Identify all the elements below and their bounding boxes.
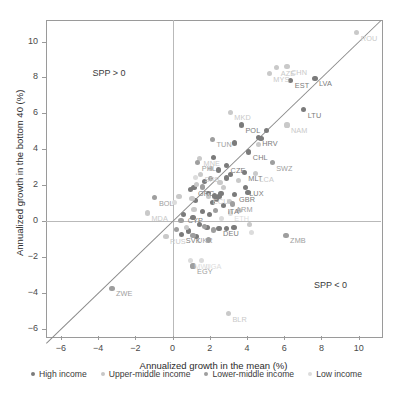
y-tick — [42, 185, 46, 186]
legend-label: Upper-middle income — [109, 369, 191, 379]
point-label: UKR — [197, 236, 213, 245]
data-point — [239, 122, 244, 127]
data-point — [174, 227, 179, 232]
data-point — [211, 227, 216, 232]
x-tick — [321, 336, 322, 340]
scatter-plot-figure: −6−4−20246810−6−4−20246810 ESTLVALTUPOLH… — [0, 0, 393, 394]
x-tick — [61, 336, 62, 340]
point-label: SWZ — [276, 164, 293, 173]
point-label: MKD — [234, 113, 251, 122]
y-tick — [42, 42, 46, 43]
x-tick — [247, 336, 248, 340]
y-tick-label: −4 — [14, 287, 38, 297]
legend-dot-icon — [204, 372, 208, 376]
point-label: CHL — [253, 153, 268, 162]
legend-item-high-income[interactable]: High income — [31, 369, 87, 379]
x-tick — [284, 336, 285, 340]
x-tick-label: 2 — [196, 343, 224, 353]
point-label: LVA — [319, 79, 332, 88]
data-point — [184, 225, 189, 230]
point-label: GBR — [239, 195, 255, 204]
data-point — [224, 175, 229, 180]
point-label: SRB — [204, 175, 219, 184]
y-axis-label: Annualized growth in the bottom 40 (%) — [14, 90, 25, 256]
point-label: PHL — [202, 164, 217, 173]
y-tick — [42, 149, 46, 150]
data-point — [216, 226, 221, 231]
legend-item-upper-middle-income[interactable]: Upper-middle income — [101, 369, 191, 379]
x-tick-label: 10 — [345, 343, 373, 353]
point-label: TUN — [217, 140, 232, 149]
horizontal-zero-line — [46, 221, 381, 222]
point-label: MDA — [151, 214, 168, 223]
quadrant-annotation: SPP < 0 — [314, 280, 347, 290]
legend-label: Low income — [316, 369, 362, 379]
point-label: DEU — [223, 229, 239, 238]
x-tick-label: 8 — [307, 343, 335, 353]
y-tick-label: 10 — [14, 36, 38, 46]
legend-dot-icon — [31, 372, 35, 376]
y-tick — [42, 293, 46, 294]
x-tick-label: 4 — [233, 343, 261, 353]
data-point — [109, 286, 114, 291]
chart-legend: High incomeUpper-middle incomeLower-midd… — [0, 369, 393, 379]
y-tick — [42, 257, 46, 258]
point-label: ETH — [234, 214, 249, 223]
point-label: NAM — [291, 126, 308, 135]
point-label: LTU — [308, 111, 322, 120]
x-tick — [210, 336, 211, 340]
y-tick — [42, 329, 46, 330]
y-tick — [42, 113, 46, 114]
x-tick — [173, 336, 174, 340]
point-label: ZWE — [116, 289, 133, 298]
point-label: ECU — [213, 197, 229, 206]
point-label: MWI — [194, 262, 209, 271]
point-label: CZE — [231, 166, 246, 175]
x-tick-label: 0 — [159, 343, 187, 353]
data-point — [188, 187, 193, 192]
x-tick-label: 6 — [270, 343, 298, 353]
point-label: BOL — [159, 199, 174, 208]
x-tick — [135, 336, 136, 340]
data-point — [284, 122, 289, 127]
x-tick-label: −2 — [121, 343, 149, 353]
legend-item-low-income[interactable]: Low income — [308, 369, 362, 379]
legend-item-lower-middle-income[interactable]: Lower-middle income — [204, 369, 294, 379]
y-tick — [42, 77, 46, 78]
legend-label: Lower-middle income — [212, 369, 294, 379]
point-label: BLR — [232, 315, 247, 324]
data-point — [228, 110, 233, 115]
data-point — [283, 233, 288, 238]
y-tick-label: −6 — [14, 323, 38, 333]
x-tick-label: −4 — [84, 343, 112, 353]
point-label: ARM — [236, 205, 253, 214]
point-label: EST — [295, 81, 310, 90]
legend-dot-icon — [101, 372, 105, 376]
data-point — [312, 76, 317, 81]
point-label: ROU — [361, 34, 378, 43]
data-point — [213, 208, 218, 213]
legend-dot-icon — [308, 372, 312, 376]
point-label: HRV — [262, 139, 278, 148]
point-label: LCA — [259, 175, 274, 184]
point-label: ZMB — [290, 236, 306, 245]
data-point — [230, 201, 235, 206]
data-point — [200, 209, 205, 214]
point-label: POL — [245, 126, 260, 135]
point-label: AZE — [281, 69, 296, 78]
x-tick-label: −6 — [47, 343, 75, 353]
x-tick — [98, 336, 99, 340]
data-point — [189, 196, 194, 201]
vertical-zero-line — [173, 20, 174, 336]
point-label: RUS — [170, 237, 186, 246]
data-point — [218, 191, 223, 196]
quadrant-annotation: SPP > 0 — [93, 68, 126, 78]
x-tick — [359, 336, 360, 340]
data-point — [145, 210, 150, 215]
data-point — [178, 218, 183, 223]
point-label: CYP — [188, 216, 203, 225]
legend-label: High income — [39, 369, 87, 379]
data-point — [191, 207, 196, 212]
y-tick — [42, 221, 46, 222]
data-point — [163, 234, 168, 239]
